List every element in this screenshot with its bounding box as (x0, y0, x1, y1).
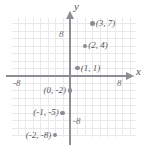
grid-line-horizontal (12, 38, 136, 39)
grid-line-vertical (48, 18, 49, 137)
data-point-label: (2, 4) (88, 41, 108, 50)
data-point-label: (0, -2) (44, 86, 67, 95)
data-point-label: (-2, -8) (26, 131, 52, 140)
grid-line-horizontal (12, 68, 136, 69)
data-point (83, 44, 87, 48)
y-axis-tick-label-negative: -8 (73, 117, 81, 126)
grid-line-vertical (33, 18, 34, 137)
data-point-label: (-1, -5) (33, 108, 59, 117)
grid-line-horizontal (12, 31, 136, 32)
data-point (75, 66, 79, 70)
grid-line-horizontal (12, 113, 136, 114)
x-axis-tick-label-negative: -8 (13, 79, 21, 88)
x-axis-arrow-icon (126, 72, 134, 80)
grid-line-vertical (25, 18, 26, 137)
coordinate-plane-figure: 8 -8 8 -8 y x (3, 7)(2, 4)(1, 1)(0, -2)(… (0, 0, 148, 147)
grid-line-horizontal (12, 23, 136, 24)
data-point (90, 21, 94, 25)
grid-line-vertical (55, 18, 56, 137)
x-axis-line (6, 75, 128, 77)
grid-line-vertical (115, 18, 116, 137)
y-axis-label: y (74, 1, 79, 12)
grid-line-horizontal (12, 128, 136, 129)
data-point (60, 111, 64, 115)
grid-line-horizontal (12, 90, 136, 91)
grid-line-vertical (107, 18, 108, 137)
grid-line-horizontal (12, 46, 136, 47)
data-point-label: (1, 1) (81, 64, 101, 73)
y-axis-line (69, 12, 71, 145)
y-axis-tick-label-positive: 8 (59, 30, 64, 39)
grid-line-horizontal (12, 98, 136, 99)
grid-line-vertical (122, 18, 123, 137)
y-axis-arrow-icon (66, 11, 74, 19)
grid-line-vertical (40, 18, 41, 137)
x-axis-tick-label-positive: 8 (117, 79, 122, 88)
grid-line-horizontal (12, 105, 136, 106)
grid-line-vertical (85, 18, 86, 137)
x-axis-label: x (136, 66, 141, 77)
grid-line-vertical (92, 18, 93, 137)
grid-line-vertical (100, 18, 101, 137)
grid-line-horizontal (12, 61, 136, 62)
grid-line-horizontal (12, 53, 136, 54)
data-point-label: (3, 7) (96, 19, 116, 28)
data-point (68, 88, 72, 92)
